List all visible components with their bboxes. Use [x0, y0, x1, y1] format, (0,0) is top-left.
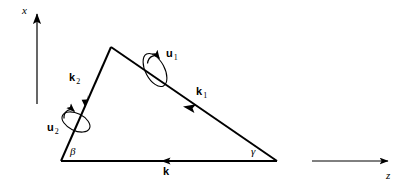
u2-axis-subscript: 2	[55, 127, 59, 136]
k-vector-label: k	[163, 166, 169, 177]
triangle-hypotenuse-edge	[111, 47, 277, 161]
u2-rotation-arrow	[64, 110, 75, 119]
angle-gamma-label: γ	[251, 146, 255, 157]
k2-vector-subscript: 2	[76, 77, 80, 86]
u2-rotation-ellipse	[59, 108, 93, 136]
figure-canvas: x z β γ k k1 k2 u1 u2	[0, 0, 407, 188]
u1-rotation-arrow	[148, 56, 160, 64]
angle-beta-label: β	[70, 146, 75, 157]
k1-vector-symbol: k	[196, 85, 202, 97]
k1-vector-arrowhead	[183, 104, 196, 113]
k2-vector-label: k2	[69, 72, 79, 83]
u1-axis-subscript: 1	[174, 53, 178, 62]
k1-vector-label: k1	[196, 86, 206, 97]
k1-vector-subscript: 1	[203, 91, 207, 100]
triangle	[61, 47, 277, 161]
u2-axis-label: u2	[47, 122, 58, 133]
k2-vector-symbol: k	[69, 71, 75, 83]
x-axis-label: x	[22, 5, 27, 16]
z-axis-label: z	[386, 170, 390, 181]
u1-axis-label: u1	[166, 48, 177, 59]
u1-axis-symbol: u	[166, 47, 173, 59]
k-vector-symbol: k	[163, 165, 169, 177]
u2-axis-symbol: u	[47, 121, 54, 133]
